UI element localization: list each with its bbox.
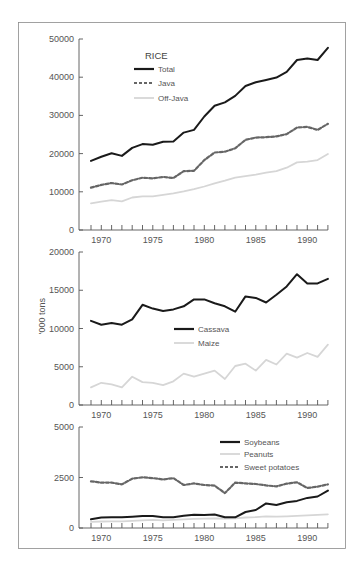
legend-label-offjava: Off-Java bbox=[158, 94, 189, 103]
y-tick-label: 0 bbox=[69, 400, 74, 410]
x-tick-label: 1975 bbox=[143, 533, 163, 543]
y-tick-label: 30000 bbox=[49, 110, 74, 120]
chart-figure: '000 tons 010000200003000040000500001970… bbox=[0, 0, 361, 563]
y-tick-label: 40000 bbox=[49, 72, 74, 82]
y-tick-label: 10000 bbox=[49, 187, 74, 197]
x-tick-label: 1970 bbox=[91, 235, 111, 245]
y-tick-label: 5000 bbox=[54, 362, 74, 372]
y-tick-label: 15000 bbox=[49, 285, 74, 295]
y-tick-label: 50000 bbox=[49, 34, 74, 44]
y-tick-label: 0 bbox=[69, 225, 74, 235]
x-tick-label: 1985 bbox=[246, 533, 266, 543]
x-tick-label: 1990 bbox=[297, 235, 317, 245]
x-tick-label: 1975 bbox=[143, 235, 163, 245]
y-tick-label: 0 bbox=[69, 523, 74, 533]
x-tick-label: 1985 bbox=[246, 410, 266, 420]
legend-title: RICE bbox=[145, 50, 168, 61]
x-tick-label: 1980 bbox=[194, 235, 214, 245]
y-axis-label: '000 tons bbox=[37, 297, 47, 334]
x-tick-label: 1980 bbox=[194, 533, 214, 543]
y-tick-label: 5000 bbox=[54, 422, 74, 432]
legend-label-java: Java bbox=[158, 79, 175, 88]
y-tick-label: 10000 bbox=[49, 324, 74, 334]
y-tick-label: 20000 bbox=[49, 149, 74, 159]
x-tick-label: 1975 bbox=[143, 410, 163, 420]
legend-label-sweetpotatoes: Sweet potatoes bbox=[244, 463, 299, 472]
x-tick-label: 1980 bbox=[194, 410, 214, 420]
x-tick-label: 1970 bbox=[91, 410, 111, 420]
legend-label-cassava: Cassava bbox=[198, 325, 230, 334]
x-tick-label: 1985 bbox=[246, 235, 266, 245]
legend-label-maize: Maize bbox=[198, 339, 220, 348]
x-tick-label: 1990 bbox=[297, 533, 317, 543]
y-tick-label: 20000 bbox=[49, 247, 74, 257]
y-tick-label: 2500 bbox=[54, 473, 74, 483]
legend-label-total: Total bbox=[158, 65, 175, 74]
x-tick-label: 1990 bbox=[297, 410, 317, 420]
legend-label-peanuts: Peanuts bbox=[244, 450, 273, 459]
legend-label-soybeans: Soybeans bbox=[244, 438, 280, 447]
x-tick-label: 1970 bbox=[91, 533, 111, 543]
